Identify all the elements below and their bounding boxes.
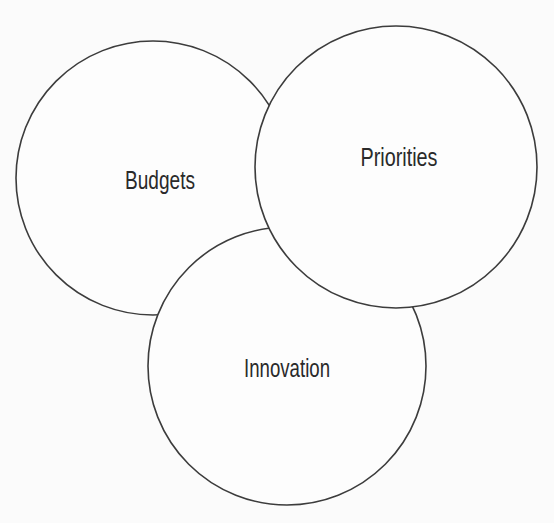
budgets-label: Budgets [125,166,195,194]
venn-diagram: Budgets Priorities Innovation [0,0,554,523]
venn-diagram-canvas: Budgets Priorities Innovation [0,0,554,523]
innovation-label: Innovation [244,354,330,382]
priorities-label: Priorities [361,143,438,171]
